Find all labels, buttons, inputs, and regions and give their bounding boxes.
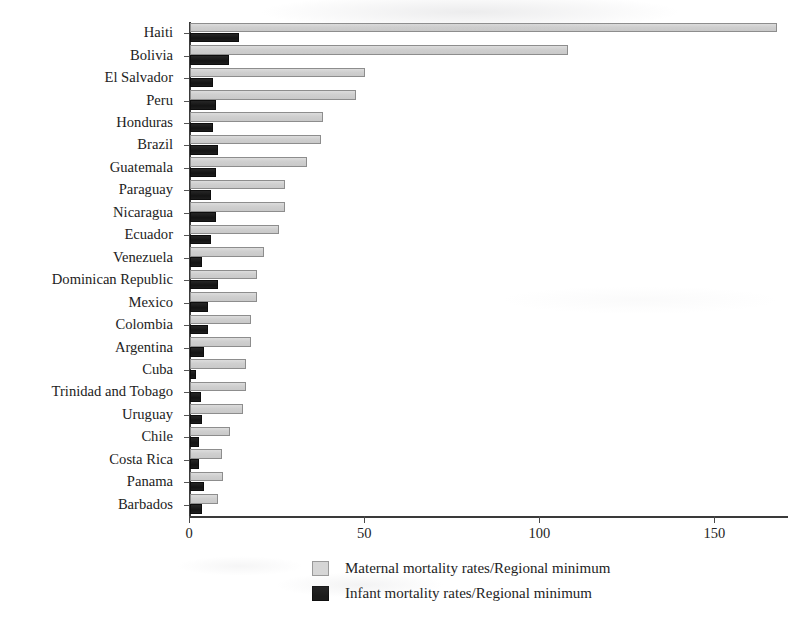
bar-infant xyxy=(190,33,239,43)
bar-infant xyxy=(190,482,204,492)
bar-infant xyxy=(190,459,199,469)
category-label: Peru xyxy=(0,93,181,108)
x-axis-label: 100 xyxy=(528,525,550,542)
bar-row: Mexico xyxy=(189,291,788,313)
legend-label-infant: Infant mortality rates/Regional minimum xyxy=(345,585,592,602)
category-label: El Salvador xyxy=(0,70,181,85)
bar-infant xyxy=(190,325,208,335)
category-label: Guatemala xyxy=(0,160,181,175)
bar-maternal xyxy=(190,270,257,280)
category-label: Chile xyxy=(0,429,181,444)
x-axis-label: 0 xyxy=(185,525,192,542)
y-axis-tick xyxy=(184,123,189,124)
bar-maternal xyxy=(190,112,323,122)
y-axis-tick xyxy=(184,505,189,506)
category-label: Nicaragua xyxy=(0,205,181,220)
bar-maternal xyxy=(190,337,251,347)
bar-maternal xyxy=(190,157,307,167)
bar-infant xyxy=(190,437,199,447)
category-label: Dominican Republic xyxy=(0,272,181,287)
y-axis-tick xyxy=(184,303,189,304)
bar-row: Ecuador xyxy=(189,224,788,246)
bar-maternal xyxy=(190,382,246,392)
bar-maternal xyxy=(190,315,251,325)
bar-infant xyxy=(190,504,202,514)
bar-row: Guatemala xyxy=(189,157,788,179)
category-label: Brazil xyxy=(0,137,181,152)
x-axis-tick xyxy=(364,516,365,523)
x-axis-label: 50 xyxy=(357,525,372,542)
y-axis-tick xyxy=(184,78,189,79)
bar-chart: HaitiBoliviaEl SalvadorPeruHondurasBrazi… xyxy=(0,0,788,618)
y-axis-tick xyxy=(184,370,189,371)
bar-maternal xyxy=(190,202,285,212)
bar-maternal xyxy=(190,180,285,190)
category-label: Venezuela xyxy=(0,250,181,265)
y-axis-tick xyxy=(184,280,189,281)
bar-infant xyxy=(190,392,201,402)
bar-row: Uruguay xyxy=(189,404,788,426)
y-axis-tick xyxy=(184,190,189,191)
bar-row: Barbados xyxy=(189,494,788,516)
category-label: Paraguay xyxy=(0,182,181,197)
x-axis-tick xyxy=(714,516,715,523)
y-axis-tick xyxy=(184,415,189,416)
bar-maternal xyxy=(190,449,222,459)
bar-maternal xyxy=(190,472,223,482)
bar-row: Panama xyxy=(189,471,788,493)
bar-row: Costa Rica xyxy=(189,449,788,471)
bar-infant xyxy=(190,302,208,312)
plot-area: HaitiBoliviaEl SalvadorPeruHondurasBrazi… xyxy=(189,22,788,516)
category-label: Ecuador xyxy=(0,227,181,242)
category-label: Uruguay xyxy=(0,407,181,422)
bar-row: El Salvador xyxy=(189,67,788,89)
y-axis-tick xyxy=(184,145,189,146)
legend-item-infant: Infant mortality rates/Regional minimum xyxy=(312,581,752,606)
bar-infant xyxy=(190,280,218,290)
bar-infant xyxy=(190,347,204,357)
y-axis-tick xyxy=(184,392,189,393)
category-label: Haiti xyxy=(0,25,181,40)
bar-row: Nicaragua xyxy=(189,202,788,224)
category-label: Honduras xyxy=(0,115,181,130)
bar-maternal xyxy=(190,90,356,100)
bar-infant xyxy=(190,78,213,88)
bar-row: Cuba xyxy=(189,359,788,381)
bar-maternal xyxy=(190,68,365,78)
bar-maternal xyxy=(190,135,321,145)
y-axis-tick xyxy=(184,482,189,483)
bar-row: Trinidad and Tobago xyxy=(189,381,788,403)
bar-row: Brazil xyxy=(189,134,788,156)
bar-maternal xyxy=(190,404,243,414)
category-label: Costa Rica xyxy=(0,452,181,467)
x-axis-tick xyxy=(189,516,190,523)
bar-maternal xyxy=(190,292,257,302)
bar-infant xyxy=(190,235,211,245)
bar-row: Argentina xyxy=(189,336,788,358)
category-label: Bolivia xyxy=(0,48,181,63)
bar-row: Honduras xyxy=(189,112,788,134)
bar-row: Venezuela xyxy=(189,247,788,269)
category-label: Mexico xyxy=(0,295,181,310)
bar-row: Paraguay xyxy=(189,179,788,201)
bar-infant xyxy=(190,100,216,110)
bar-maternal xyxy=(190,359,246,369)
chart-title xyxy=(0,0,788,5)
category-label: Panama xyxy=(0,474,181,489)
bar-infant xyxy=(190,257,202,267)
x-axis-tick xyxy=(539,516,540,523)
y-axis-tick xyxy=(184,213,189,214)
bar-infant xyxy=(190,415,202,425)
bar-infant xyxy=(190,123,213,133)
legend-item-maternal: Maternal mortality rates/Regional minimu… xyxy=(312,556,752,581)
bar-row: Bolivia xyxy=(189,44,788,66)
bar-row: Haiti xyxy=(189,22,788,44)
bar-infant xyxy=(190,145,218,155)
y-axis-tick xyxy=(184,56,189,57)
bar-row: Dominican Republic xyxy=(189,269,788,291)
category-label: Barbados xyxy=(0,497,181,512)
legend-label-maternal: Maternal mortality rates/Regional minimu… xyxy=(345,560,610,577)
bar-infant xyxy=(190,370,196,380)
category-label: Trinidad and Tobago xyxy=(0,384,181,399)
category-label: Argentina xyxy=(0,340,181,355)
